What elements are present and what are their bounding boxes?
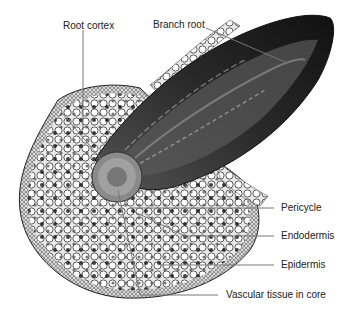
label-branch-root: Branch root — [153, 19, 205, 31]
label-endodermis: Endodermis — [281, 230, 334, 242]
label-root-cortex: Root cortex — [63, 20, 114, 32]
label-epidermis: Epidermis — [281, 259, 325, 271]
label-pericycle: Pericycle — [281, 202, 322, 214]
label-vascular-tissue: Vascular tissue in core — [226, 289, 326, 301]
root-cross-section-diagram: Root cortex Branch root Pericycle Endode… — [0, 0, 349, 310]
